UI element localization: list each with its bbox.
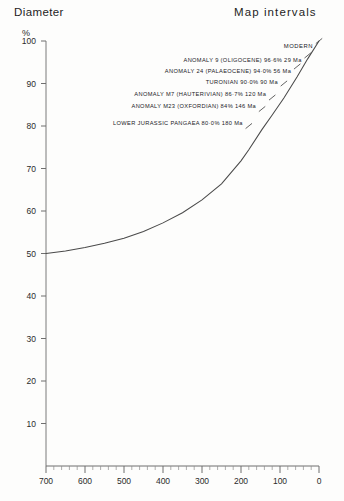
figure-page: Diameter Map intervals % 100908070605040…	[0, 0, 344, 501]
y-tick-label-20: 20	[10, 376, 36, 386]
x-tick-label-400: 400	[148, 476, 178, 486]
x-tick-label-100: 100	[265, 476, 295, 486]
x-tick-label-200: 200	[226, 476, 256, 486]
annotation-label-6: LOWER JURASSIC PANGAEA 80·0% 180 Ma	[113, 120, 243, 126]
annotation-label-0: MODERN	[284, 43, 313, 49]
y-tick-label-90: 90	[10, 79, 36, 89]
x-axis-tick-marks	[46, 466, 319, 473]
chart-canvas	[0, 0, 344, 501]
y-tick-label-40: 40	[10, 291, 36, 301]
annotation-label-2: ANOMALY 24 (PALAEOCENE) 94·0% 56 Ma	[165, 68, 291, 74]
annotation-label-5: ANOMALY M23 (OXFORDIAN) 84% 146 Ma	[132, 103, 257, 109]
y-tick-label-60: 60	[10, 206, 36, 216]
x-tick-label-0: 0	[304, 476, 334, 486]
annotation-label-4: ANOMALY M7 (HAUTERIVIAN) 86·7% 120 Ma	[134, 91, 266, 97]
y-tick-label-30: 30	[10, 334, 36, 344]
y-tick-label-80: 80	[10, 121, 36, 131]
x-tick-label-500: 500	[109, 476, 139, 486]
x-axis-minor-tick-marks	[54, 466, 311, 470]
annotation-label-3: TURONIAN 90·0% 90 Ma	[206, 79, 278, 85]
x-tick-label-700: 700	[31, 476, 61, 486]
y-tick-label-50: 50	[10, 249, 36, 259]
y-tick-label-10: 10	[10, 419, 36, 429]
annotation-label-1: ANOMALY 9 (OLIGOCENE) 96·6% 29 Ma	[184, 57, 302, 63]
x-tick-label-600: 600	[70, 476, 100, 486]
y-axis-tick-marks	[41, 41, 46, 424]
x-tick-label-300: 300	[187, 476, 217, 486]
y-tick-label-100: 100	[10, 36, 36, 46]
y-tick-label-70: 70	[10, 164, 36, 174]
